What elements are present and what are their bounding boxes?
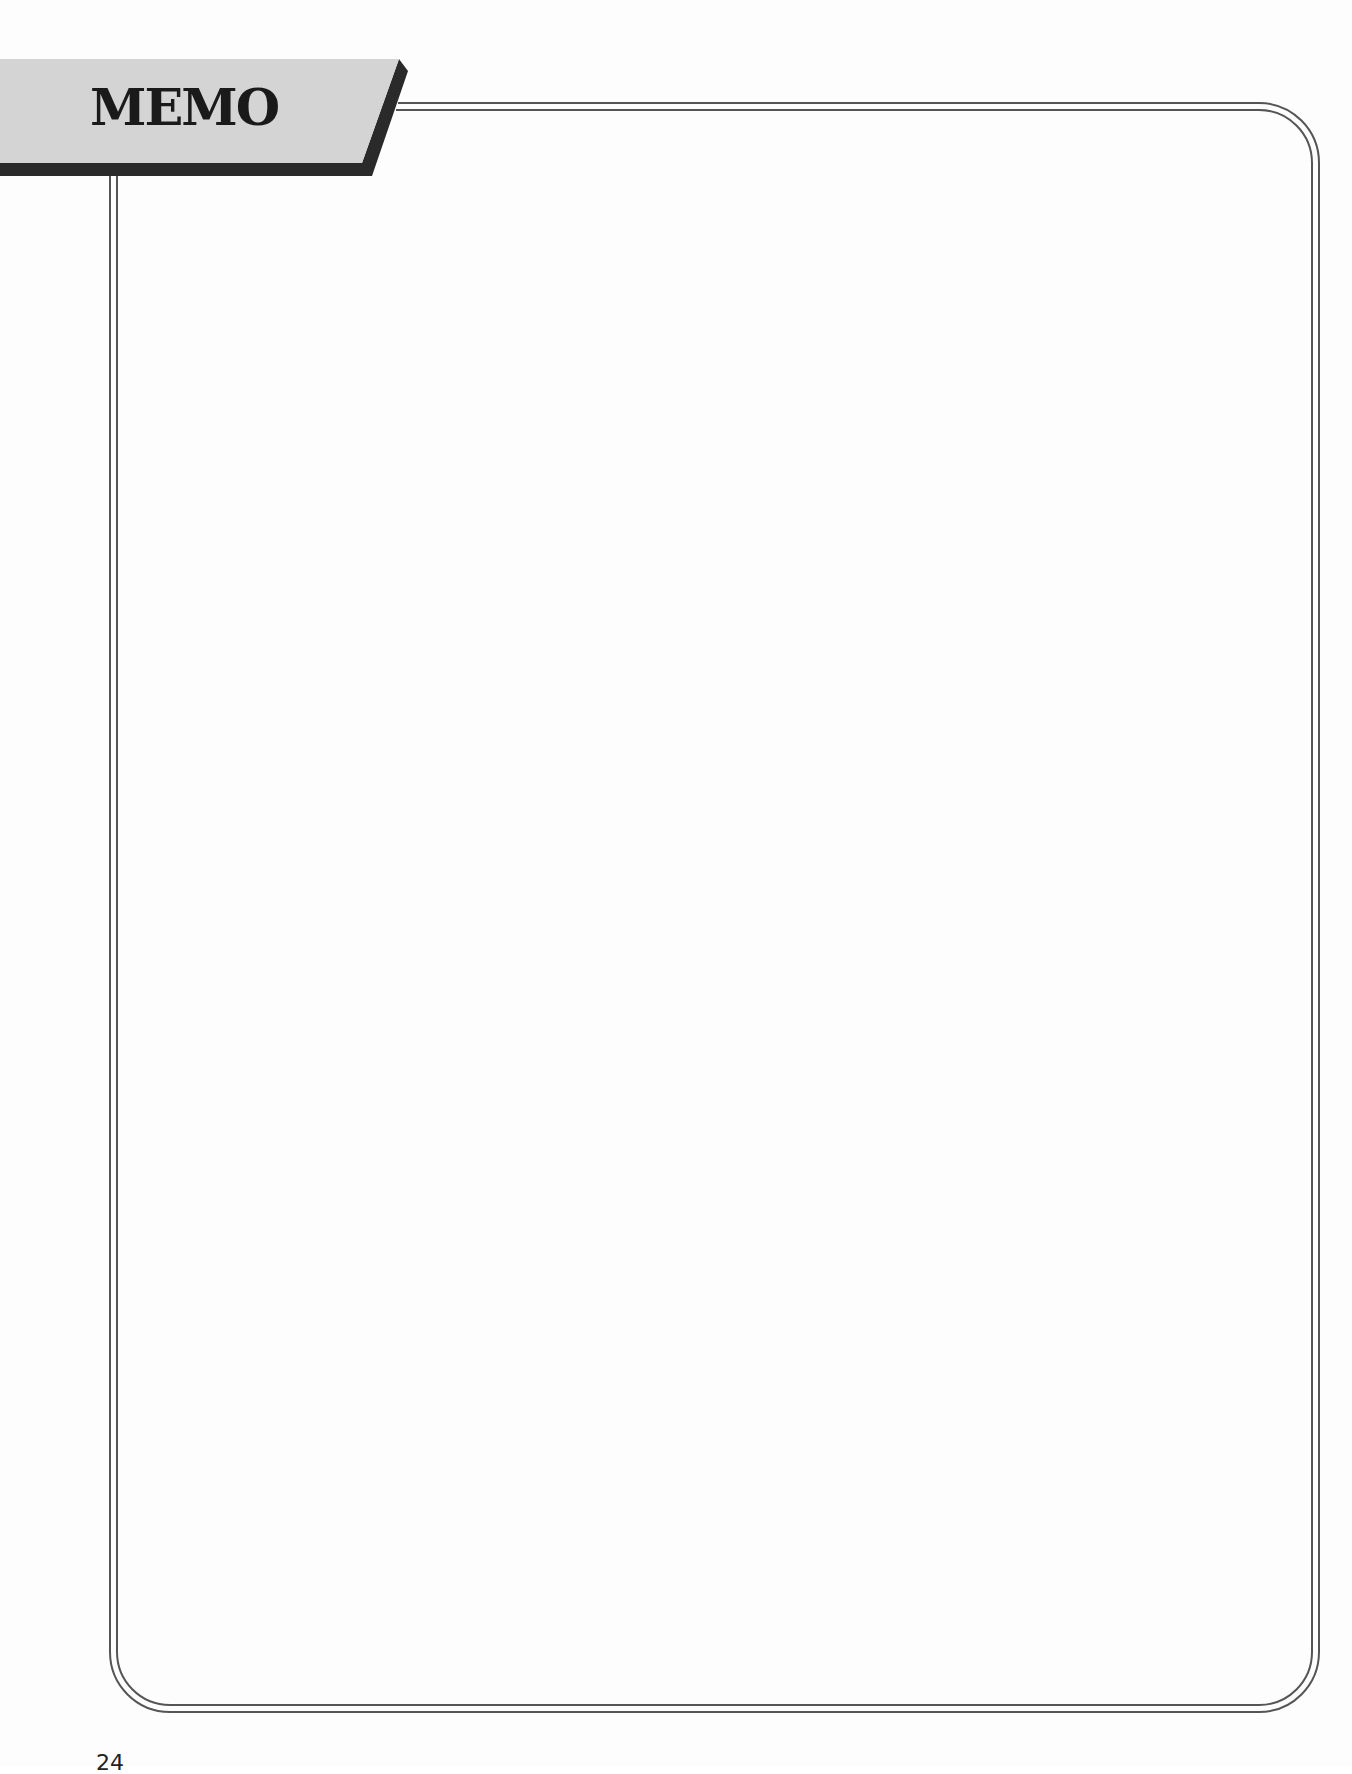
page-number: 24	[96, 1752, 124, 1774]
memo-writing-area[interactable]	[118, 110, 1311, 1704]
